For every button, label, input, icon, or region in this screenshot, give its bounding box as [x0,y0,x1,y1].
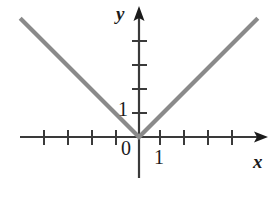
y-axis-label: y [116,4,124,23]
y-axis-unit-label: 1 [118,99,128,119]
figure-container: y x 0 1 1 [0,0,280,198]
coordinate-plot [0,0,280,198]
origin-label: 0 [121,138,131,158]
x-axis-label: x [253,152,263,171]
x-axis-unit-label: 1 [154,147,164,167]
